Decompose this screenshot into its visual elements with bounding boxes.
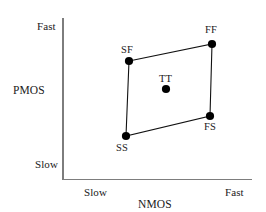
process-corner-diagram: Fast Slow PMOS Slow Fast NMOS SF FF TT S… (0, 0, 266, 212)
point-tt-dot[interactable] (162, 85, 170, 93)
point-sf-dot[interactable] (125, 57, 133, 65)
point-label-tt: TT (159, 74, 172, 85)
point-label-ss: SS (116, 143, 128, 154)
x-axis-title: NMOS (138, 199, 172, 211)
point-fs-dot[interactable] (206, 112, 214, 120)
point-label-ff: FF (205, 25, 217, 36)
y-axis-title: PMOS (13, 85, 45, 97)
y-axis-tick-fast: Fast (37, 21, 56, 32)
point-ff-dot[interactable] (208, 40, 216, 48)
y-axis-tick-slow: Slow (35, 159, 58, 170)
point-label-fs: FS (204, 122, 216, 133)
x-axis-tick-fast: Fast (225, 187, 244, 198)
x-axis-tick-slow: Slow (84, 187, 107, 198)
point-ss-dot[interactable] (122, 132, 130, 140)
point-label-sf: SF (121, 45, 133, 56)
